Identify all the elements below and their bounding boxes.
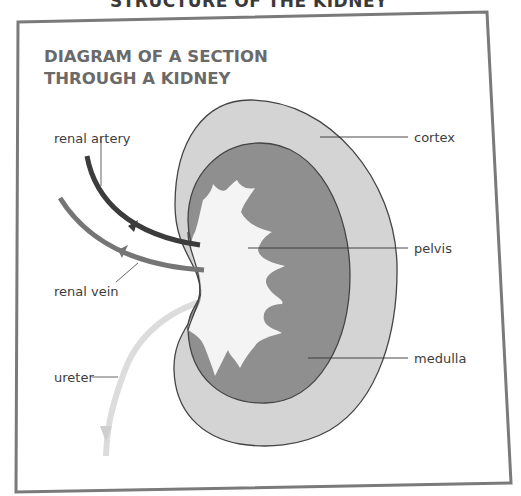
diagram-title-line2: THROUGH A KIDNEY — [44, 69, 232, 88]
label-renal-vein: renal vein — [54, 284, 119, 299]
label-ureter: ureter — [54, 370, 94, 385]
diagram-title-line1: DIAGRAM OF A SECTION — [44, 47, 268, 66]
label-pelvis: pelvis — [414, 241, 452, 256]
kidney-diagram: DIAGRAM OF A SECTION THROUGH A KIDNEY re… — [0, 0, 521, 496]
label-renal-artery: renal artery — [54, 131, 131, 146]
label-medulla: medulla — [414, 351, 466, 366]
label-cortex: cortex — [414, 130, 455, 145]
